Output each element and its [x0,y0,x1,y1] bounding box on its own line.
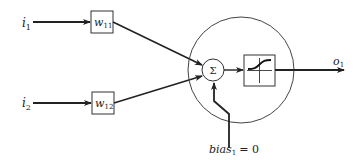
neuron-diagram: i1 w11 i2 w12 Σ o1 bias1= 0 [0,0,363,160]
bias-arrow [214,83,229,148]
bias-label: bias1= 0 [209,143,259,157]
input-2-label: i2 [22,96,31,112]
summation-symbol: Σ [209,65,216,76]
weighted-input-1-line [113,22,202,65]
output-label: o1 [333,55,344,69]
input-1-label: i1 [22,16,31,32]
